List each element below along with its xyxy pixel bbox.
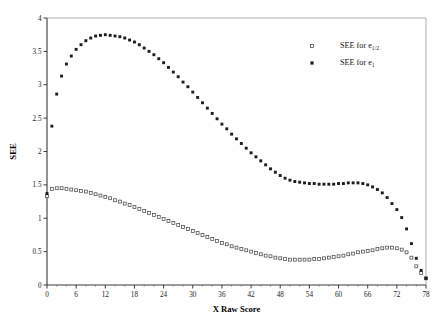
data-point bbox=[342, 254, 345, 257]
data-point bbox=[318, 258, 321, 261]
data-point bbox=[230, 245, 233, 248]
data-point bbox=[323, 183, 326, 186]
x-tick-label: 6 bbox=[74, 291, 78, 299]
data-point bbox=[327, 183, 330, 186]
data-point bbox=[318, 183, 321, 186]
data-point bbox=[157, 215, 160, 218]
data-point bbox=[80, 189, 83, 192]
data-point bbox=[264, 163, 267, 166]
y-tick-label: 3 bbox=[38, 81, 42, 89]
data-point bbox=[177, 75, 180, 78]
data-point bbox=[264, 254, 267, 257]
data-point bbox=[395, 208, 398, 211]
data-point bbox=[274, 171, 277, 174]
data-point bbox=[172, 71, 175, 74]
data-point bbox=[250, 151, 253, 154]
data-point bbox=[323, 257, 326, 260]
data-point bbox=[415, 265, 418, 268]
data-point bbox=[235, 246, 238, 249]
x-tick-label: 54 bbox=[306, 291, 314, 299]
data-point bbox=[357, 181, 360, 184]
y-tick-label: 2.5 bbox=[33, 115, 42, 123]
data-point bbox=[361, 182, 364, 185]
data-point bbox=[157, 57, 160, 60]
legend-subscript: 1 bbox=[372, 62, 375, 68]
data-point bbox=[415, 257, 418, 260]
data-point bbox=[138, 207, 141, 210]
data-point bbox=[99, 34, 102, 37]
data-point bbox=[50, 125, 53, 128]
data-point bbox=[60, 75, 63, 78]
data-point bbox=[123, 202, 126, 205]
data-point bbox=[55, 187, 58, 190]
data-point bbox=[206, 107, 209, 110]
scatter-plot-svg: 00.511.522.533.5406121824303642485460667… bbox=[0, 0, 441, 323]
data-point bbox=[182, 225, 185, 228]
data-point bbox=[172, 221, 175, 224]
data-point bbox=[391, 246, 394, 249]
data-point bbox=[225, 127, 228, 130]
data-point bbox=[70, 55, 73, 58]
chart-figure: 00.511.522.533.5406121824303642485460667… bbox=[0, 0, 441, 323]
y-tick-label: 1 bbox=[38, 215, 42, 223]
data-point bbox=[152, 213, 155, 216]
data-point bbox=[352, 181, 355, 184]
data-point bbox=[357, 251, 360, 254]
x-tick-label: 60 bbox=[335, 291, 343, 299]
data-point bbox=[400, 248, 403, 251]
data-point bbox=[347, 181, 350, 184]
data-point bbox=[327, 256, 330, 259]
data-point bbox=[220, 242, 223, 245]
data-point bbox=[186, 227, 189, 230]
data-point bbox=[371, 249, 374, 252]
data-point bbox=[279, 257, 282, 260]
data-point bbox=[162, 217, 165, 220]
data-point bbox=[289, 258, 292, 261]
data-point bbox=[143, 47, 146, 50]
data-point bbox=[400, 216, 403, 219]
data-point bbox=[240, 248, 243, 251]
data-point bbox=[60, 187, 63, 190]
data-point bbox=[104, 195, 107, 198]
data-point bbox=[347, 253, 350, 256]
data-point bbox=[410, 256, 413, 259]
data-point bbox=[235, 137, 238, 140]
data-point bbox=[201, 233, 204, 236]
data-point bbox=[225, 243, 228, 246]
data-point bbox=[352, 252, 355, 255]
data-point bbox=[191, 91, 194, 94]
data-point bbox=[250, 250, 253, 253]
data-point bbox=[220, 123, 223, 126]
data-point bbox=[191, 229, 194, 232]
data-point bbox=[386, 196, 389, 199]
data-point bbox=[303, 181, 306, 184]
data-point bbox=[381, 247, 384, 250]
data-point bbox=[46, 192, 49, 195]
data-point bbox=[332, 183, 335, 186]
data-point bbox=[148, 211, 151, 214]
data-point bbox=[240, 142, 243, 145]
data-point bbox=[332, 256, 335, 259]
data-point bbox=[167, 219, 170, 222]
legend-label: SEE for e1/2 bbox=[340, 41, 379, 51]
legend-marker-open-square bbox=[310, 44, 313, 47]
data-point bbox=[420, 272, 423, 275]
data-point bbox=[366, 183, 369, 186]
data-point bbox=[55, 93, 58, 96]
data-point bbox=[284, 258, 287, 261]
y-tick-label: 3.5 bbox=[33, 48, 42, 56]
data-point bbox=[65, 63, 68, 66]
data-point bbox=[386, 246, 389, 249]
data-point bbox=[75, 48, 78, 51]
x-tick-label: 12 bbox=[102, 291, 110, 299]
data-point bbox=[114, 199, 117, 202]
data-point bbox=[308, 182, 311, 185]
data-point bbox=[259, 159, 262, 162]
data-point bbox=[65, 187, 68, 190]
data-point bbox=[313, 182, 316, 185]
data-point bbox=[196, 231, 199, 234]
y-tick-label: 0 bbox=[38, 282, 42, 290]
data-point bbox=[211, 112, 214, 115]
x-tick-label: 66 bbox=[364, 291, 372, 299]
data-point bbox=[425, 277, 428, 280]
